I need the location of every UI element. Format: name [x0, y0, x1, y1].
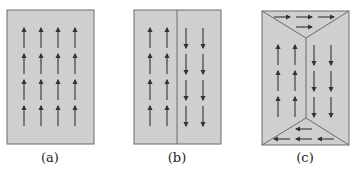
panel-a-single-domain — [7, 10, 94, 144]
domain-box-a — [7, 10, 94, 144]
panel-label-b: (b) — [168, 150, 186, 165]
panel-c-closure-domains — [262, 11, 349, 145]
domain-diagram-canvas — [0, 0, 351, 173]
panel-label-a: (a) — [41, 150, 59, 165]
domain-figure: (a) (b) (c) — [0, 0, 351, 173]
panel-b-two-domains — [134, 10, 221, 144]
panel-label-c: (c) — [296, 150, 313, 165]
